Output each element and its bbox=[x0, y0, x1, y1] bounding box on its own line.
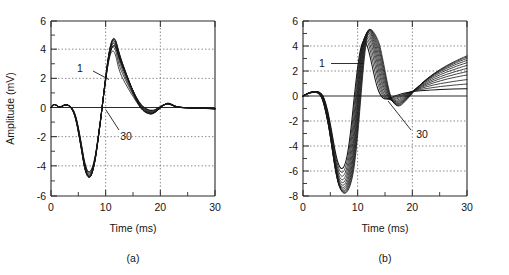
panel-a-canvas: 1 30 6 4 2 0 -2 -4 -6 0 10 20 30 Time (m… bbox=[0, 0, 255, 275]
panel-b-xaxis-title: Time (ms) bbox=[362, 222, 409, 234]
panel-a-xtick-0: 0 bbox=[48, 201, 54, 213]
panel-a-frame bbox=[51, 21, 215, 196]
panel-a-grid bbox=[51, 21, 215, 196]
panel-b-svg: 1 30 6 4 2 0 -2 -4 -6 -8 0 10 20 30 Time… bbox=[254, 0, 509, 275]
panel-b-ytick-2: 2 bbox=[292, 65, 298, 77]
panel-a-y-ticks bbox=[51, 21, 57, 196]
panel-a-ytick-neg6: -6 bbox=[37, 190, 46, 202]
panel-a-yaxis-title: Amplitude (mV) bbox=[4, 72, 16, 144]
panel-a-ytick-neg4: -4 bbox=[37, 160, 46, 172]
panel-a: 1 30 6 4 2 0 -2 -4 -6 0 10 20 30 Time (m… bbox=[0, 0, 255, 275]
panel-b-y-ticks bbox=[303, 21, 309, 196]
panel-b: 1 30 6 4 2 0 -2 -4 -6 -8 0 10 20 30 Time… bbox=[254, 0, 509, 275]
panel-a-annotation-1: 1 bbox=[77, 62, 83, 74]
panel-b-xtick-20: 20 bbox=[406, 201, 418, 213]
panel-a-xtick-20: 20 bbox=[154, 201, 166, 213]
panel-b-ytick-neg6: -6 bbox=[289, 165, 298, 177]
panel-a-ytick-neg2: -2 bbox=[37, 131, 46, 143]
panel-b-canvas: 1 30 6 4 2 0 -2 -4 -6 -8 0 10 20 30 Time… bbox=[254, 0, 509, 275]
panel-b-ytick-neg4: -4 bbox=[289, 140, 298, 152]
panel-a-ytick-6: 6 bbox=[40, 15, 46, 27]
panel-b-ytick-0: 0 bbox=[292, 90, 298, 102]
panel-a-ytick-2: 2 bbox=[40, 72, 46, 84]
panel-a-annotation-30: 30 bbox=[120, 130, 132, 142]
panel-a-xaxis-title: Time (ms) bbox=[110, 222, 157, 234]
panel-b-ytick-neg8: -8 bbox=[289, 190, 298, 202]
panel-a-xtick-10: 10 bbox=[100, 201, 112, 213]
panel-a-x-ticks bbox=[51, 21, 215, 196]
panel-b-xtick-10: 10 bbox=[352, 201, 364, 213]
panel-b-annotation-30: 30 bbox=[416, 128, 428, 140]
panel-b-xtick-0: 0 bbox=[300, 201, 306, 213]
panel-a-ytick-4: 4 bbox=[40, 43, 46, 55]
panel-a-caption: (a) bbox=[127, 252, 140, 264]
panel-a-ytick-0: 0 bbox=[40, 102, 46, 114]
panel-b-traces bbox=[303, 29, 467, 193]
panel-b-xtick-30: 30 bbox=[461, 201, 473, 213]
panel-a-svg: 1 30 6 4 2 0 -2 -4 -6 0 10 20 30 Time (m… bbox=[0, 0, 255, 275]
panel-b-ytick-4: 4 bbox=[292, 40, 298, 52]
panel-b-annotation-1: 1 bbox=[319, 57, 325, 69]
panel-b-caption: (b) bbox=[379, 252, 392, 264]
panel-a-xtick-30: 30 bbox=[209, 201, 221, 213]
panel-b-ytick-6: 6 bbox=[292, 15, 298, 27]
leader-line-30 bbox=[106, 110, 119, 130]
figure-container: 1 30 6 4 2 0 -2 -4 -6 0 10 20 30 Time (m… bbox=[0, 0, 509, 275]
panel-b-ytick-neg2: -2 bbox=[289, 115, 298, 127]
